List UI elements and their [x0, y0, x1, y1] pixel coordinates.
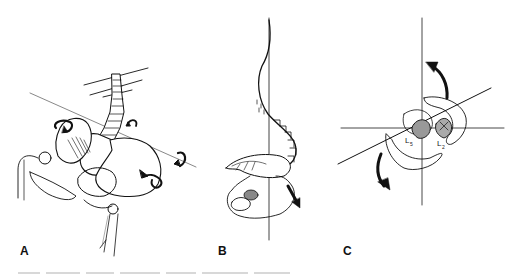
- panel-a-pelvis-drawing: [18, 68, 196, 256]
- acetabulum: [244, 190, 258, 200]
- right-femur-shaft: [100, 214, 118, 256]
- left-femur-shaft: [18, 156, 38, 198]
- right-femoral-head: [108, 204, 118, 214]
- panel-label-a: A: [20, 244, 29, 258]
- sacrum-profile: [226, 155, 290, 178]
- figure-canvas: L 5 L 2: [0, 0, 516, 277]
- left-femoral-head: [39, 152, 51, 164]
- caption-cutoff: [18, 272, 318, 275]
- panel-b-spine-drawing: [226, 18, 300, 240]
- l5-vertebra-body: [412, 120, 430, 139]
- l5-subscript: 5: [410, 141, 413, 147]
- l2-subscript: 2: [442, 144, 445, 150]
- spine-s-curve: [259, 20, 296, 168]
- pelvic-outline-left: [386, 134, 442, 170]
- spinous-ticks: [257, 100, 264, 114]
- pubis-left: [30, 172, 76, 200]
- pelvis-outline: [227, 176, 294, 218]
- panel-c-axial-drawing: L 5 L 2: [338, 18, 504, 205]
- panel-label-c: C: [343, 244, 352, 258]
- panel-label-b: B: [218, 244, 227, 258]
- medical-illustration-figure: L 5 L 2 A B C: [0, 0, 516, 277]
